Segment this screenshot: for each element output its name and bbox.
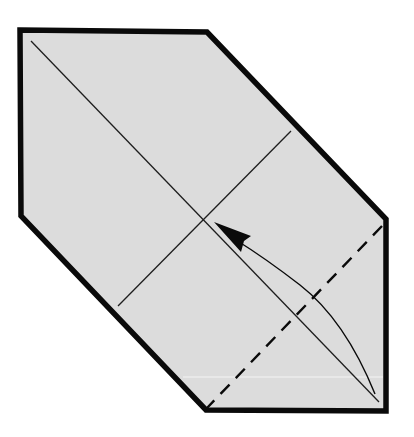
origami-diagram: Origami folding step: fold corner up to …	[0, 0, 414, 437]
